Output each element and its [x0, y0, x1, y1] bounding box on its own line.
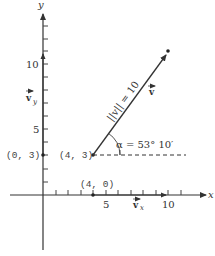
point-0-3-label: (0, 3)	[6, 150, 40, 161]
y-axis: y 10 5	[26, 0, 48, 250]
y-axis-label: y	[37, 0, 44, 10]
vx-subscript: x	[140, 204, 144, 212]
vx-label: v x	[132, 199, 144, 212]
point-4-3: (4, 3)	[59, 150, 95, 161]
magnitude-label: ||v|| = 10	[105, 79, 142, 124]
vy-symbol: v	[25, 93, 32, 103]
x-tick-5: 5	[103, 199, 109, 210]
vx-symbol: v	[132, 200, 139, 210]
vy-label: v y	[25, 91, 38, 106]
vector-v-symbol: v	[148, 87, 155, 97]
point-4-0-label: (4, 0)	[80, 179, 114, 190]
x-axis-label: x	[208, 189, 214, 200]
vy-subscript: y	[32, 98, 38, 106]
vector-diagram: y 10 5 v y x 5 10 v x	[0, 0, 215, 256]
x-axis: x 5 10	[10, 189, 214, 210]
point-0-3: (0, 3)	[6, 150, 45, 161]
point-4-0: (4, 0)	[80, 179, 114, 197]
point-4-3-label: (4, 3)	[59, 150, 93, 161]
y-tick-10: 10	[26, 59, 39, 70]
x-tick-10: 10	[162, 199, 175, 210]
y-tick-5: 5	[33, 124, 39, 135]
angle-label: α = 53° 10′	[116, 139, 174, 150]
